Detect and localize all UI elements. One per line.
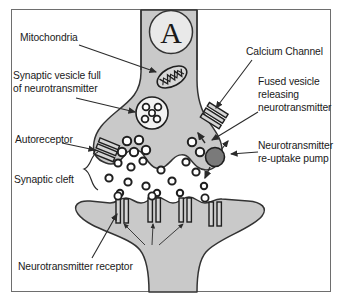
label-synaptic-vesicle-line1: Synaptic vesicle full (13, 70, 101, 82)
leader-reuptake-pump (231, 152, 258, 154)
label-mitochondria: Mitochondria (20, 32, 78, 44)
synaptic-vesicle-full (136, 97, 168, 129)
label-synaptic-vesicle-line2: of neurotransmitter (13, 83, 98, 95)
label-fused-vesicle-line3: neurotransmitter (258, 102, 331, 114)
synaptic-cleft-brace (84, 152, 98, 190)
postsynaptic-dendrite (76, 197, 265, 292)
label-autoreceptor: Autoreceptor (15, 134, 73, 146)
label-neurotransmitter-receptor: Neurotransmitter receptor (18, 261, 133, 273)
label-reuptake-line2: re-uptake pump (258, 153, 329, 165)
axon-marker-letter: A (160, 16, 182, 49)
label-calcium-channel: Calcium Channel (246, 46, 323, 58)
axon-label-circle: A (150, 11, 193, 54)
label-fused-vesicle-line2: releasing (258, 89, 299, 101)
label-fused-vesicle-line1: Fused vesicle (258, 76, 320, 88)
leader-calcium-channel (216, 60, 252, 108)
label-synaptic-cleft: Synaptic cleft (14, 174, 74, 186)
label-reuptake-line1: Neurotransmitter (258, 140, 333, 152)
postsynaptic-dendrite-shape (76, 197, 265, 292)
figure-canvas: A (0, 0, 344, 302)
